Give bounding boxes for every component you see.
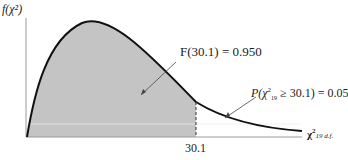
tail-suffix: ≥ 30.1) = 0.05 bbox=[277, 86, 348, 100]
y-axis-label: f(χ²) bbox=[2, 2, 22, 17]
cdf-annotation: F(30.1) = 0.950 bbox=[180, 44, 262, 60]
x-tick-critical: 30.1 bbox=[185, 141, 206, 156]
tail-sup: 2 bbox=[268, 86, 272, 94]
tail-prefix: P(χ bbox=[251, 86, 268, 100]
tail-probability-annotation: P(χ219 ≥ 30.1) = 0.05 bbox=[251, 86, 348, 101]
x-axis-sub: 19 d.f. bbox=[316, 132, 334, 140]
x-axis-label: χ219 d.f. bbox=[307, 127, 333, 140]
shaded-area-cdf bbox=[27, 21, 196, 137]
